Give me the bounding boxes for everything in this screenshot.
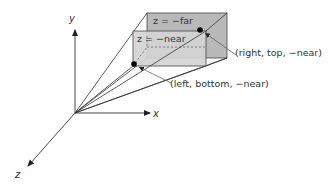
bottom-left-point (131, 61, 137, 67)
frustum-diagram: z = −far z = −near (right, top, −near) (… (0, 0, 329, 185)
x-axis-label: x (152, 108, 159, 119)
top-right-point-label: (right, top, −near) (235, 47, 322, 58)
near-plane-label: z = −near (137, 33, 186, 44)
axes (28, 30, 150, 166)
y-axis-label: y (68, 13, 76, 24)
top-right-point (197, 27, 203, 33)
far-plane-label: z = −far (153, 15, 193, 26)
z-axis (28, 113, 75, 166)
z-axis-label: z (14, 169, 21, 180)
bottom-left-point-label: (left, bottom, −near) (170, 78, 269, 89)
bottom-left-leader (139, 67, 171, 83)
